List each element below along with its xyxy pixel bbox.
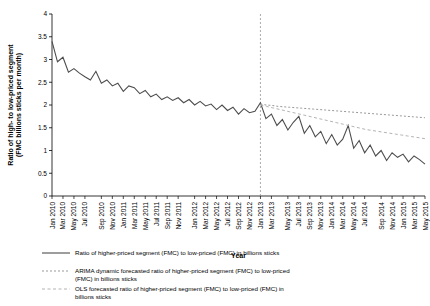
legend-label-line: ARIMA dynamic forecasted ratio of higher… bbox=[75, 267, 290, 274]
x-tick-label: Nov 2011 bbox=[175, 202, 182, 230]
legend-label-line: billions sticks bbox=[75, 293, 111, 300]
x-tick-label: Mar 2015 bbox=[411, 202, 418, 230]
x-tick-label: May 2011 bbox=[142, 202, 150, 230]
y-tick-label: 2 bbox=[43, 101, 47, 108]
x-tick-label: Mar 2014 bbox=[339, 202, 346, 230]
x-tick-label: Nov 2010 bbox=[109, 202, 116, 230]
x-tick-label: Sep 2010 bbox=[98, 202, 106, 230]
x-tick-label: Sep 2012 bbox=[235, 202, 243, 230]
x-tick-label: Sep 2014 bbox=[378, 202, 386, 230]
x-tick-label: Jul 2010 bbox=[81, 202, 88, 227]
legend-label-line: (FMC) in billions sticks bbox=[75, 275, 137, 282]
x-tick-label: May 2015 bbox=[422, 202, 430, 231]
legend-label-1: Ratio of higher-priced segment (FMC) to … bbox=[75, 249, 279, 256]
x-tick-label: Nov 2014 bbox=[389, 202, 396, 230]
x-tick-label: Nov 2013 bbox=[317, 202, 324, 230]
y-axis-title-line: Ratio of high- to low-priced segment bbox=[7, 44, 15, 166]
x-tick-label: Jan 2010 bbox=[49, 202, 56, 229]
y-tick-label: 3.5 bbox=[38, 33, 47, 40]
y-tick-label: 2.5 bbox=[38, 79, 47, 86]
x-tick-label: Sep 2013 bbox=[306, 202, 314, 230]
x-tick-label: Mar 2011 bbox=[131, 202, 138, 229]
x-tick-label: Jul 2011 bbox=[153, 202, 160, 226]
x-tick-label: Jan 2011 bbox=[120, 202, 127, 229]
y-tick-label: 4 bbox=[43, 10, 47, 17]
x-tick-label: Jul 2013 bbox=[295, 202, 302, 227]
x-tick-label: Jan 2014 bbox=[328, 202, 335, 229]
x-tick-label: Jul 2012 bbox=[224, 202, 231, 227]
x-tick-label: Mar 2010 bbox=[59, 202, 66, 230]
y-tick-label: 1 bbox=[43, 147, 47, 154]
x-tick-label: Jul 2014 bbox=[361, 202, 368, 227]
series-observed-line bbox=[52, 41, 425, 164]
x-tick-label: Mar 2012 bbox=[202, 202, 209, 230]
y-axis-title: Ratio of high- to low-priced segment(FMC… bbox=[7, 44, 23, 166]
x-tick-label: May 2010 bbox=[70, 202, 78, 231]
legend-label-line: OLS forecasted ratio of higher-priced se… bbox=[75, 285, 284, 292]
legend-label-3: OLS forecasted ratio of higher-priced se… bbox=[75, 285, 284, 300]
x-tick-label: Mar 2013 bbox=[268, 202, 275, 230]
y-tick-label: 3 bbox=[43, 56, 47, 63]
x-tick-label: May 2012 bbox=[213, 202, 221, 231]
x-tick-label: Jan 2015 bbox=[400, 202, 407, 229]
x-tick-label: May 2013 bbox=[284, 202, 292, 231]
y-tick-label: 0.5 bbox=[38, 170, 47, 177]
series-forecast-line-2 bbox=[260, 105, 425, 139]
y-axis-title-line: (FMC billions sticks per month) bbox=[15, 53, 23, 157]
y-tick-label: 0 bbox=[43, 192, 47, 199]
x-tick-label: Jan 2013 bbox=[257, 202, 264, 229]
series-forecast-line-1 bbox=[260, 104, 425, 118]
line-chart: 00.511.522.533.54Ratio of high- to low-p… bbox=[0, 0, 430, 306]
x-tick-label: May 2014 bbox=[350, 202, 358, 231]
chart-container: 00.511.522.533.54Ratio of high- to low-p… bbox=[0, 0, 430, 306]
legend-label-2: ARIMA dynamic forecasted ratio of higher… bbox=[75, 267, 290, 282]
y-tick-label: 1.5 bbox=[38, 124, 47, 131]
x-tick-label: Sep 2011 bbox=[164, 202, 172, 230]
x-tick-label: Nov 2012 bbox=[246, 202, 253, 230]
x-tick-label: Jan 2012 bbox=[191, 202, 198, 229]
